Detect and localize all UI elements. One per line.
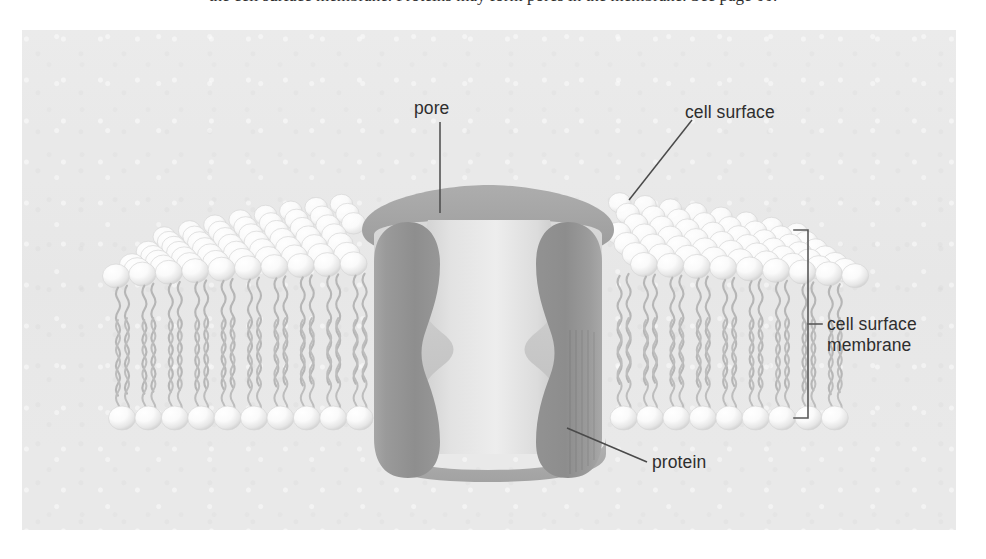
label-cell-surface-membrane: cell surface membrane (827, 314, 956, 355)
phospholipid-head (789, 260, 816, 284)
phospholipid-tail (274, 318, 287, 416)
phospholipid-head (821, 406, 848, 430)
membrane-diagram-svg (22, 30, 956, 530)
label-cell-surface-membrane-line1: cell surface (827, 314, 917, 334)
phospholipid-tail (670, 318, 683, 416)
figure-root: the cell surface membrane. Proteins may … (0, 0, 986, 559)
phospholipid-head (135, 406, 162, 430)
phospholipid-tail (776, 281, 789, 391)
phospholipid-head (314, 253, 341, 277)
phospholipid-head (155, 260, 182, 284)
phospholipid-head (188, 406, 215, 430)
phospholipid-tail (222, 318, 235, 416)
phospholipid-head (109, 406, 136, 430)
phospholipid-tail (802, 318, 815, 416)
label-cell-surface-membrane-line2: membrane (827, 335, 911, 355)
label-cell-surface: cell surface (685, 102, 775, 123)
phospholipid-tail (195, 280, 208, 390)
phospholipid-tail (750, 279, 763, 389)
phospholipid-head (842, 264, 869, 288)
label-protein: protein (652, 452, 706, 473)
phospholipid-tail (723, 318, 736, 416)
phospholipid-head (742, 406, 769, 430)
phospholipid-tail (195, 318, 208, 416)
phospholipid-head (241, 406, 268, 430)
phospholipid-tail (697, 318, 710, 416)
phospholipid-tail (776, 318, 789, 416)
phospholipid-head (610, 406, 637, 430)
phospholipid-head (637, 406, 664, 430)
phospholipid-tail (248, 318, 261, 416)
cropped-caption-text: the cell surface membrane. Proteins may … (0, 0, 986, 6)
phospholipid-tail (750, 318, 763, 416)
phospholipid-head (267, 406, 294, 430)
phospholipid-head (631, 252, 658, 276)
phospholipid-head (161, 406, 188, 430)
phospholipid-head (683, 254, 710, 278)
phospholipid-head (320, 406, 347, 430)
phospholipid-head (346, 406, 373, 430)
channel-protein (362, 185, 614, 482)
phospholipid-head (716, 406, 743, 430)
phospholipid-tail (802, 282, 815, 392)
phospholipid-head (663, 406, 690, 430)
phospholipid-head (129, 262, 156, 286)
phospholipid-head (710, 256, 737, 280)
phospholipid-tail (169, 318, 182, 416)
phospholipid-tail (169, 282, 182, 392)
phospholipid-head (736, 257, 763, 281)
phospholipid-tail (301, 318, 314, 416)
phospholipid-head (657, 253, 684, 277)
phospholipid-head (103, 264, 130, 288)
phospholipid-head (689, 406, 716, 430)
cropped-caption-sliver: the cell surface membrane. Proteins may … (0, 0, 986, 12)
phospholipid-head (208, 257, 235, 281)
phospholipid-head (214, 406, 241, 430)
phospholipid-head (763, 258, 790, 282)
phospholipid-head (340, 252, 367, 276)
phospholipid-head (769, 406, 796, 430)
cell-surface-leader-line (629, 120, 692, 200)
diagram-panel: pore cell surface cell surface membrane … (22, 30, 956, 530)
phospholipid-head (293, 406, 320, 430)
phospholipid-head (261, 255, 288, 279)
phospholipid-head (815, 262, 842, 286)
label-pore: pore (414, 98, 449, 119)
phospholipid-head (182, 259, 209, 283)
phospholipid-head (287, 254, 314, 278)
phospholipid-head (235, 256, 262, 280)
